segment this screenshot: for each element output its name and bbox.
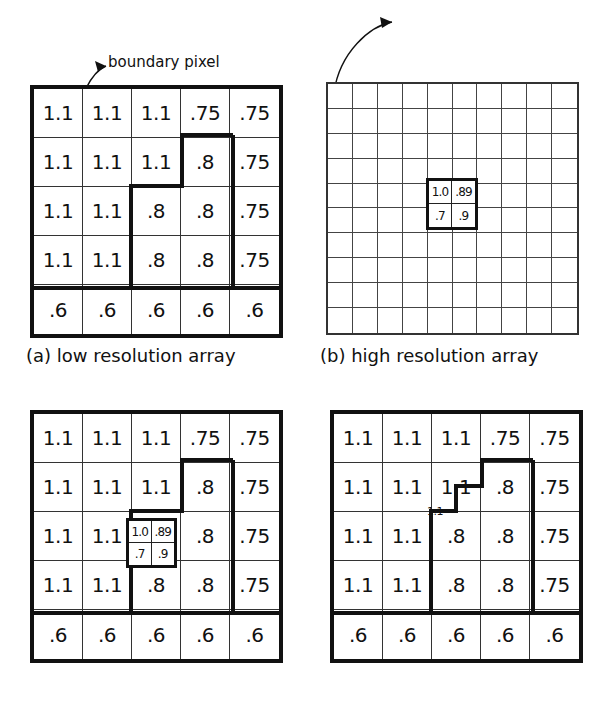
grid-cell: .75 [530,561,579,610]
grid-cell [552,84,577,109]
grid-cell: .8 [481,512,530,561]
subcell: 1.0 [129,521,152,543]
grid-cell [403,233,428,258]
grid-cell [328,84,353,109]
grid-cell: .75 [530,463,579,512]
grid-cell [502,184,527,209]
grid-cell [403,208,428,233]
grid-cell [527,84,552,109]
grid-cell [428,283,453,308]
grid-cell [378,109,403,134]
grid-cell [477,109,502,134]
grid-cell [403,283,428,308]
grid-cell: .8 [181,187,230,236]
grid-cell [403,134,428,159]
grid-cell [453,134,478,159]
grid-cell [552,308,577,333]
grid-cell: .6 [132,285,181,334]
grid-cell [403,84,428,109]
table-row: 1.1 1.1 .8 .8 .75 [334,512,579,561]
grid-cell [328,134,353,159]
grid-cell [353,84,378,109]
grid-cell [552,233,577,258]
grid-cell [527,233,552,258]
grid-cell [378,283,403,308]
grid-cell [477,159,502,184]
grid-cell: 1.1 [383,463,432,512]
grid-cell [378,258,403,283]
grid-cell [527,134,552,159]
grid-cell: 1.1 [83,138,132,187]
table-row: 1.1 1.1 .8 .8 .75 [34,236,279,285]
grid-cell: .6 [481,610,530,659]
grid-cell [502,308,527,333]
grid-cell: .6 [432,610,481,659]
subcell: 1.0 [429,181,452,204]
grid-cell [353,233,378,258]
grid-cell: .6 [132,610,181,659]
grid-cell [328,283,353,308]
grid-cell [552,283,577,308]
grid-cell [403,109,428,134]
grid-cell: .8 [432,512,481,561]
grid-cell [453,258,478,283]
grid-cell [428,134,453,159]
grid-cell: 1.1 [34,512,83,561]
grid-cell [477,283,502,308]
grid-cell: 1.1 [34,463,83,512]
subcell: .9 [152,543,175,565]
grid-cell: .6 [83,285,132,334]
grid-cell: 1.1 [334,414,383,463]
grid-cell [328,258,353,283]
table-row: 1.1 1.1 1.1 .75 .75 [34,414,279,463]
grid-cell: .75 [230,561,279,610]
grid-cell [552,134,577,159]
grid-cell [403,258,428,283]
grid-cell: .8 [132,236,181,285]
table-row: 1.1 1.1 1.1 .75 .75 [334,414,579,463]
grid-cell: .8 [132,561,181,610]
grid-cell: .6 [334,610,383,659]
grid-cell: .6 [181,610,230,659]
grid-cell [328,184,353,209]
grid-cell [502,109,527,134]
table-row: 1.1 1.1 1.1 .8 .75 [34,463,279,512]
grid-cell: .6 [230,285,279,334]
grid-cell [328,159,353,184]
grid-cell [353,258,378,283]
table-row [328,308,577,333]
grid-cell [527,258,552,283]
grid-cell [403,159,428,184]
grid-cell [353,208,378,233]
grid-cell: .75 [230,187,279,236]
grid-cell [502,208,527,233]
grid-cell: 1.1 [83,89,132,138]
grid-cell [552,208,577,233]
grid-cell: 1.1 [83,236,132,285]
grid-cell [428,308,453,333]
grid-cell [477,184,502,209]
grid-cell: .6 [230,610,279,659]
grid-cell [378,84,403,109]
grid-cell [328,233,353,258]
grid-cell [428,233,453,258]
grid-cell [453,233,478,258]
subcell: .89 [452,181,475,204]
grid-cell: 1.1 [132,138,181,187]
grid-cell: .6 [181,285,230,334]
grid-cell: .75 [530,414,579,463]
subcell: .7 [429,204,452,227]
grid-cell [453,109,478,134]
grid-cell [353,159,378,184]
table-row [328,283,577,308]
grid-cell: .6 [34,610,83,659]
grid-cell: 1.1 [432,414,481,463]
table-row: .6 .6 .6 .6 .6 [34,285,279,334]
grid-cell [477,308,502,333]
grid-cell [477,258,502,283]
grid-cell [378,233,403,258]
grid-cell [378,159,403,184]
low-resolution-grid-d: 1.1 1.1 1.1 .75 .75 1.1 1.1 1.1 .8 .75 1… [330,410,583,663]
grid-cell: 1.1 [34,138,83,187]
grid-cell: .75 [530,512,579,561]
